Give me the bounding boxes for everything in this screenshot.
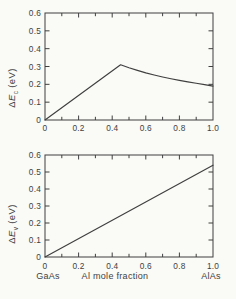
y-axis-label-conduction: ΔEc(eV) (6, 43, 18, 133)
figure-band-offsets: 00.20.40.60.81.000.10.20.30.40.50.6 ΔEc(… (0, 0, 236, 299)
x-tick-label: 0.8 (173, 123, 185, 133)
x-tick-label: 0.6 (140, 261, 152, 271)
tick-labels: 00.20.40.60.81.000.10.20.30.40.50.6 (29, 8, 219, 133)
conduction-band-chart: 00.20.40.60.81.000.10.20.30.40.50.6 (0, 0, 236, 140)
series-line (45, 65, 213, 120)
axes-frame (45, 155, 213, 257)
x-tick-label: 1.0 (207, 123, 219, 133)
x-tick-label: 0.6 (140, 123, 152, 133)
unit-label: (eV) (6, 204, 17, 224)
conduction-band-panel: 00.20.40.60.81.000.10.20.30.40.50.6 ΔEc(… (0, 0, 236, 140)
y-tick-label: 0.3 (29, 62, 41, 72)
x-tick-label: 0.4 (106, 261, 118, 271)
y-tick-label: 0.5 (29, 167, 41, 177)
data-series (45, 165, 213, 257)
y-tick-label: 0.3 (29, 201, 41, 211)
y-tick-label: 0 (36, 252, 41, 262)
tick-labels: 00.20.40.60.81.000.10.20.30.40.50.6 (29, 150, 219, 271)
data-series (45, 65, 213, 120)
x-tick-label: 0 (43, 261, 48, 271)
x-axis-endpoint-alas: AlAs (192, 271, 230, 281)
x-tick-label: 0.2 (73, 123, 85, 133)
x-tick-label: 0.8 (173, 261, 185, 271)
y-tick-label: 0.6 (29, 8, 41, 18)
axes-frame (45, 13, 213, 120)
x-axis-title: Al mole fraction (63, 271, 167, 281)
axis-ticks (45, 155, 213, 257)
energy-subscript: v (12, 227, 19, 231)
delta-symbol: Δ (6, 101, 17, 108)
energy-symbol: E (6, 94, 17, 101)
y-tick-label: 0.1 (29, 235, 41, 245)
energy-symbol: E (6, 230, 17, 237)
x-tick-label: 1.0 (207, 261, 219, 271)
y-tick-label: 0.5 (29, 26, 41, 36)
y-tick-label: 0.1 (29, 97, 41, 107)
y-tick-label: 0.4 (29, 184, 41, 194)
x-axis-caption-row: GaAs Al mole fraction AlAs (0, 271, 236, 284)
energy-subscript: c (12, 91, 19, 95)
valence-band-panel: 00.20.40.60.81.000.10.20.30.40.50.6 ΔEv(… (0, 140, 236, 299)
y-tick-label: 0.4 (29, 44, 41, 54)
x-tick-label: 0.2 (73, 261, 85, 271)
x-tick-label: 0.4 (106, 123, 118, 133)
axis-ticks (45, 13, 213, 120)
unit-label: (eV) (6, 68, 17, 88)
series-line (45, 165, 213, 257)
y-tick-label: 0.2 (29, 79, 41, 89)
y-tick-label: 0 (36, 115, 41, 125)
delta-symbol: Δ (6, 237, 17, 244)
y-tick-label: 0.2 (29, 218, 41, 228)
y-tick-label: 0.6 (29, 150, 41, 160)
x-tick-label: 0 (43, 123, 48, 133)
y-axis-label-valence: ΔEv(eV) (6, 179, 18, 269)
x-axis-endpoint-gaas: GaAs (29, 271, 67, 281)
